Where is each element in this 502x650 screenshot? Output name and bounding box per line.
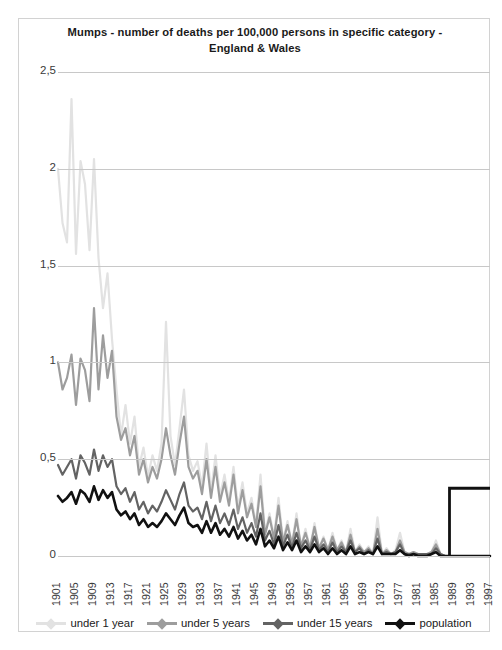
legend-marker-icon — [147, 619, 177, 628]
x-axis-tick-label: 1917 — [122, 582, 134, 606]
y-axis-tick-label: 1 — [16, 354, 56, 366]
legend-item[interactable]: population — [385, 617, 471, 629]
x-axis-tick-label: 1905 — [68, 582, 80, 606]
x-axis-tick-label: 1977 — [392, 582, 404, 606]
gridline — [58, 169, 490, 170]
chart-title: Mumps - number of deaths per 100,000 per… — [60, 24, 450, 56]
series-line-population — [58, 486, 490, 556]
x-axis-labels: 1901190519091913191719211925192919331937… — [58, 560, 490, 606]
x-axis-tick-label: 1909 — [86, 582, 98, 606]
x-axis-tick-label: 1925 — [158, 582, 170, 606]
x-axis-tick-label: 1949 — [266, 582, 278, 606]
legend-item[interactable]: under 15 years — [263, 617, 372, 629]
x-axis-tick-label: 1933 — [194, 582, 206, 606]
series-line-under-5-years — [58, 308, 490, 556]
x-axis-tick-label: 1929 — [176, 582, 188, 606]
series-line-under-1-year — [58, 99, 490, 556]
y-axis-labels: 00,511,522,5 — [12, 0, 56, 650]
y-axis-tick-label: 1,5 — [16, 258, 56, 270]
legend-item[interactable]: under 5 years — [147, 617, 250, 629]
gridline — [58, 556, 490, 557]
chart-legend: under 1 yearunder 5 yearsunder 15 yearsp… — [18, 612, 490, 634]
series-lines — [58, 72, 490, 556]
x-axis-tick-label: 1989 — [446, 582, 458, 606]
gridline — [58, 72, 490, 73]
plot-area — [58, 72, 490, 556]
x-axis-tick-label: 1981 — [410, 582, 422, 606]
x-axis-tick-label: 1957 — [302, 582, 314, 606]
gridline — [58, 266, 490, 267]
x-axis-tick-label: 1985 — [428, 582, 440, 606]
series-line-under-15-years — [58, 450, 490, 556]
x-axis-tick-label: 1937 — [212, 582, 224, 606]
legend-label: under 15 years — [297, 617, 372, 629]
gridline — [58, 459, 490, 460]
x-axis-tick-label: 1993 — [464, 582, 476, 606]
y-axis-tick-label: 2,5 — [16, 64, 56, 76]
x-axis-tick-label: 1913 — [104, 582, 116, 606]
x-axis-tick-label: 1945 — [248, 582, 260, 606]
y-axis-tick-label: 2 — [16, 161, 56, 173]
x-axis-tick-label: 1901 — [50, 582, 62, 606]
legend-marker-icon — [36, 619, 66, 628]
y-axis-tick-label: 0 — [16, 548, 56, 560]
x-axis-tick-label: 1965 — [338, 582, 350, 606]
x-axis-tick-label: 1953 — [284, 582, 296, 606]
x-axis-tick-label: 1973 — [374, 582, 386, 606]
x-axis-tick-label: 1941 — [230, 582, 242, 606]
x-axis-tick-label: 1969 — [356, 582, 368, 606]
legend-label: population — [419, 617, 471, 629]
gridline — [58, 362, 490, 363]
vaccine-introduction-marker — [450, 488, 491, 556]
x-axis-tick-label: 1961 — [320, 582, 332, 606]
x-axis-tick-label: 1997 — [482, 582, 494, 606]
legend-item[interactable]: under 1 year — [36, 617, 133, 629]
legend-label: under 1 year — [70, 617, 133, 629]
legend-label: under 5 years — [181, 617, 250, 629]
legend-marker-icon — [385, 619, 415, 628]
y-axis-tick-label: 0,5 — [16, 451, 56, 463]
legend-marker-icon — [263, 619, 293, 628]
x-axis-tick-label: 1921 — [140, 582, 152, 606]
